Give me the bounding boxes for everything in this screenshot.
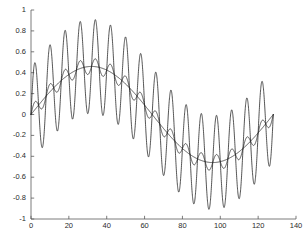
y-tick-label-7: 0.4	[2, 69, 26, 77]
y-tick-label-2: -0.6	[2, 173, 26, 181]
x-tick-label-7: 140	[283, 222, 303, 230]
y-tick-label-8: 0.6	[2, 48, 26, 56]
axes	[31, 10, 296, 219]
y-tick-label-6: 0.2	[2, 90, 26, 98]
y-tick-label-4: -0.2	[2, 131, 26, 139]
x-tick-label-4: 80	[169, 222, 195, 230]
x-tick-label-6: 120	[245, 222, 271, 230]
y-tick-label-9: 0.8	[2, 27, 26, 35]
curve-fundamental-plus-large-ripple	[31, 20, 273, 210]
x-tick-label-3: 60	[132, 222, 158, 230]
data-curves	[31, 20, 273, 210]
y-tick-label-5: 0	[2, 111, 26, 119]
x-tick-label-0: 0	[18, 222, 44, 230]
figure-canvas: -1-0.8-0.6-0.4-0.200.20.40.60.81 0204060…	[0, 0, 303, 238]
x-tick-marks	[31, 216, 296, 219]
x-tick-label-1: 20	[56, 222, 82, 230]
y-tick-label-1: -0.8	[2, 194, 26, 202]
chart-svg	[0, 0, 303, 238]
y-tick-label-3: -0.4	[2, 152, 26, 160]
y-tick-label-10: 1	[2, 6, 26, 14]
x-tick-label-5: 100	[207, 222, 233, 230]
x-tick-label-2: 40	[94, 222, 120, 230]
